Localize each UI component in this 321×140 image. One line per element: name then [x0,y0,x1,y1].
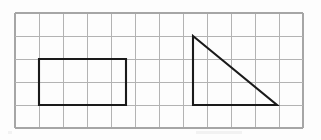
scan-smudge [196,131,242,134]
paper-background [0,0,321,140]
grid-figure-svg [0,0,321,140]
figure-canvas [0,0,321,140]
scan-smudge [8,131,12,134]
